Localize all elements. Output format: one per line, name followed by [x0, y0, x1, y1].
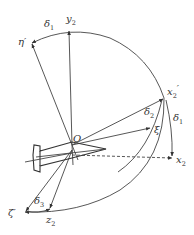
- xi-axis: [72, 128, 150, 145]
- delta2-label: δ2: [144, 106, 154, 120]
- x2-prime-label: x2′: [167, 83, 180, 100]
- y2-axis: [69, 31, 72, 145]
- rotation-arc-upper: [32, 32, 164, 98]
- x2-label: x2: [176, 154, 186, 168]
- y2-label: y2: [65, 13, 76, 27]
- delta3-label: δ3: [34, 195, 44, 209]
- zeta-prime-label: ζ′: [8, 207, 16, 218]
- origin-label: O: [73, 133, 81, 144]
- delta1-right-label: δ1: [173, 112, 183, 126]
- eta-prime-axis: [32, 44, 72, 145]
- x2-axis-dashed: [72, 155, 172, 158]
- xi-label: ξ: [154, 124, 160, 135]
- eta-prime-label: η′: [18, 36, 27, 47]
- coordinate-frame-diagram: O y2 η′ x2′ x2 ξ z2 ζ′ δ1 δ1 δ2 δ3: [0, 0, 194, 235]
- delta1-arc: [166, 100, 172, 156]
- z2-label: z2: [45, 214, 55, 228]
- delta1-top-label: δ1: [44, 18, 54, 32]
